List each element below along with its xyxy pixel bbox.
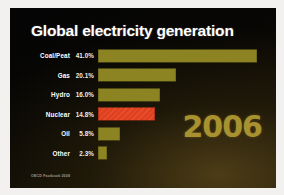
- category-label: Gas: [10, 72, 70, 79]
- presentation-slide: Global electricity generation Coal/Peat4…: [10, 8, 276, 188]
- bar-row: Other2.3%: [10, 144, 276, 164]
- page-title: Global electricity generation: [31, 22, 234, 40]
- bar: [98, 49, 257, 62]
- value-label: 41.0%: [72, 52, 94, 59]
- bar-row: Coal/Peat41.0%: [10, 46, 276, 66]
- value-label: 16.0%: [72, 91, 94, 98]
- bar: [98, 147, 107, 160]
- category-label: Oil: [10, 130, 70, 137]
- bar: [98, 127, 120, 140]
- year-stamp: 2006: [183, 112, 263, 142]
- value-label: 20.1%: [72, 72, 94, 79]
- bar-track: [98, 88, 272, 101]
- value-label: 2.3%: [72, 150, 94, 157]
- bar-row: Gas20.1%: [10, 66, 276, 86]
- bar-track: [98, 147, 272, 160]
- bar-row: Hydro16.0%: [10, 85, 276, 105]
- category-label: Coal/Peat: [10, 52, 70, 59]
- source-note: OECD Factbook 2008: [31, 174, 70, 178]
- value-label: 14.8%: [72, 111, 94, 118]
- bar: [98, 69, 176, 82]
- value-label: 5.8%: [72, 130, 94, 137]
- bar-track: [98, 49, 272, 62]
- bar-track: [98, 69, 272, 82]
- category-label: Nuclear: [10, 111, 70, 118]
- category-label: Hydro: [10, 91, 70, 98]
- category-label: Other: [10, 150, 70, 157]
- bar-chart: Coal/Peat41.0%Gas20.1%Hydro16.0%Nuclear1…: [10, 46, 276, 166]
- bar: [98, 88, 160, 101]
- slide-frame: Global electricity generation Coal/Peat4…: [0, 0, 284, 195]
- bar-highlighted: [98, 108, 155, 121]
